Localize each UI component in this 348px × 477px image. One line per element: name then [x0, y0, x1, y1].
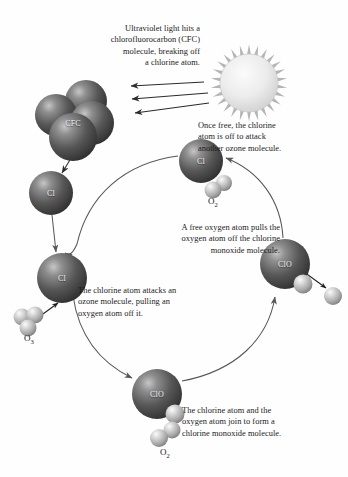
free-oxygen-atom [324, 287, 342, 305]
caption-free-oxygen-pulls: A free oxygen atom pulls the oxygen atom… [112, 222, 280, 256]
clo-bottom-molecule [132, 369, 185, 424]
o2-bottom-formula: O2 [152, 447, 178, 459]
o2-top-formula: O2 [200, 196, 226, 208]
caption-uv-hits-cfc: Ultraviolet light hits a chlorofluorocar… [44, 23, 200, 69]
ozone-cycle-diagram: CFC Cl Cl Cl ClO ClO O2 O3 O2 Ultraviole… [0, 0, 348, 477]
caption-join-to-form-clo: The chlorine atom and the oxygen atom jo… [182, 405, 346, 439]
o2-bottom-molecule [150, 422, 181, 448]
cfc-cluster [35, 80, 114, 161]
o3-formula: O3 [16, 333, 42, 345]
caption-once-free: Once free, the chlorine atom is off to a… [198, 120, 348, 154]
o3-molecule [14, 307, 44, 337]
cl-upper-left-sphere [29, 171, 73, 215]
caption-chlorine-attacks-ozone: The chlorine atom attacks an ozone molec… [78, 285, 248, 319]
